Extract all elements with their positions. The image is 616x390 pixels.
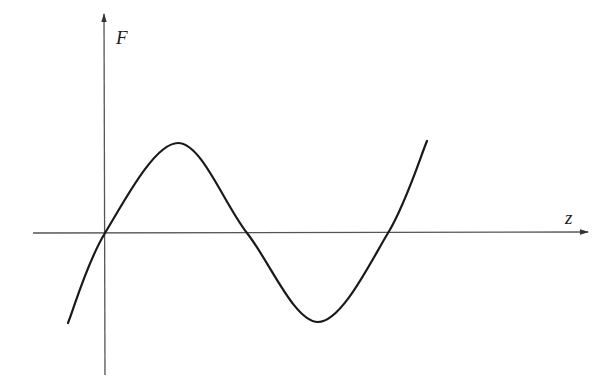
function-plot: F z bbox=[0, 0, 616, 390]
y-axis bbox=[104, 14, 105, 375]
x-axis-label: z bbox=[564, 207, 573, 228]
y-axis-label: F bbox=[115, 27, 128, 48]
x-axis bbox=[33, 232, 588, 233]
